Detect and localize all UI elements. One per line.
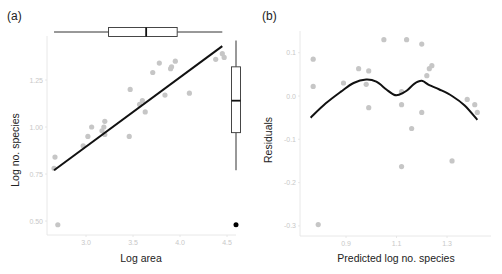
y-tick-label: 0.1 — [286, 49, 296, 56]
data-point — [341, 80, 346, 85]
data-point — [169, 64, 174, 69]
y-tick-label: -0.3 — [284, 222, 296, 229]
data-point — [157, 60, 162, 65]
panel-b-points — [311, 37, 480, 227]
data-point — [52, 154, 57, 159]
panel-a-marginal-boxplot-x — [54, 28, 222, 37]
data-point — [381, 37, 386, 42]
y-tick-label: 1.25 — [29, 77, 43, 84]
data-point — [213, 57, 218, 62]
data-point — [89, 124, 94, 129]
x-tick-label: 3.5 — [128, 239, 138, 246]
panel-b-y-axis-title: Residuals — [262, 117, 274, 163]
data-point — [85, 134, 90, 139]
panel-b-smooth-curve — [311, 80, 478, 120]
panel-a-x-axis-title: Log area — [120, 252, 162, 264]
box — [232, 67, 241, 133]
data-point — [364, 82, 369, 87]
panel-a-regression-line — [54, 46, 222, 170]
y-tick-label: 1.00 — [29, 124, 43, 131]
x-tick-label: 0.9 — [341, 240, 351, 247]
y-tick-label: 0.50 — [29, 218, 43, 225]
data-point — [127, 134, 132, 139]
data-point — [475, 110, 480, 115]
data-point — [55, 222, 60, 227]
data-point — [143, 109, 148, 114]
data-point — [101, 124, 106, 129]
panel-a-y-axis-title: Log no. species — [9, 113, 21, 187]
loess-curve — [311, 80, 478, 120]
panel-b: (b) 0.91.11.30.10.0-0.1-0.2-0.3 Predicte… — [262, 9, 491, 264]
data-point — [429, 63, 434, 68]
panel-a-points — [51, 51, 226, 227]
data-point — [399, 102, 404, 107]
x-tick-label: 1.3 — [442, 240, 452, 247]
data-point — [128, 87, 133, 92]
data-point — [150, 70, 155, 75]
data-point — [173, 59, 178, 64]
x-tick-label: 4.0 — [175, 239, 185, 246]
data-point — [162, 92, 167, 97]
data-point — [404, 37, 409, 42]
x-tick-label: 4.5 — [222, 239, 232, 246]
y-tick-label: 0.75 — [29, 171, 43, 178]
panel-a: (a) 3.03.54.04.50.500.751.001.25 Log are… — [7, 9, 241, 264]
panel-b-label: (b) — [262, 9, 277, 23]
data-point — [316, 222, 321, 227]
panel-a-marginal-boxplot-y — [232, 41, 241, 228]
data-point — [356, 66, 361, 71]
data-point — [399, 164, 404, 169]
y-tick-label: -0.1 — [284, 136, 296, 143]
regression-line — [54, 46, 222, 170]
data-point — [366, 105, 371, 110]
data-point — [419, 41, 424, 46]
y-tick-label: 0.0 — [286, 93, 296, 100]
box — [109, 28, 178, 37]
panel-b-x-axis-title: Predicted log no. species — [337, 252, 454, 264]
data-point — [311, 84, 316, 89]
panel-a-label: (a) — [7, 9, 22, 23]
y-tick-label: -0.2 — [284, 179, 296, 186]
data-point — [419, 110, 424, 115]
x-tick-label: 1.1 — [392, 240, 402, 247]
data-point — [311, 57, 316, 62]
panel-b-axes: 0.91.11.30.10.0-0.1-0.2-0.3 — [284, 31, 491, 247]
figure: (a) 3.03.54.04.50.500.751.001.25 Log are… — [0, 0, 502, 274]
x-tick-label: 3.0 — [81, 239, 91, 246]
data-point — [424, 73, 429, 78]
outlier-point — [234, 222, 239, 227]
panel-a-axes: 3.03.54.04.50.500.751.001.25 — [29, 36, 236, 246]
data-point — [465, 97, 470, 102]
data-point — [472, 102, 477, 107]
data-point — [102, 119, 107, 124]
data-point — [366, 68, 371, 73]
data-point — [409, 126, 414, 131]
data-point — [187, 91, 192, 96]
data-point — [449, 158, 454, 163]
data-point — [222, 55, 227, 60]
